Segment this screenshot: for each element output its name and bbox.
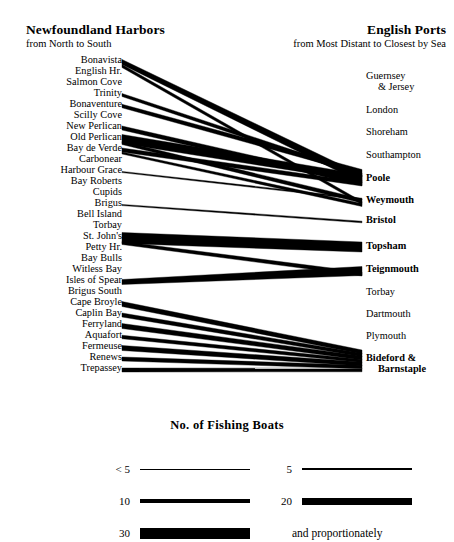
flow-band: [122, 357, 362, 369]
left-header-subtitle: from North to South: [26, 38, 165, 49]
port-label-line1: London: [366, 104, 398, 115]
port-label: Teignmouth: [366, 264, 419, 275]
flow-band: [122, 171, 362, 199]
legend-item: 10: [86, 495, 250, 507]
port-label: Weymouth: [366, 195, 414, 206]
port-label: Torbay: [366, 287, 395, 298]
right-header-title: English Ports: [293, 22, 446, 38]
flow-band: [122, 233, 362, 253]
port-label-line1: Torbay: [366, 286, 395, 297]
harbor-label: Brigus South: [68, 286, 122, 297]
legend-item-value: 30: [86, 527, 140, 539]
legend-item-swatch: [140, 528, 250, 539]
harbor-label: Torbay: [93, 220, 122, 231]
port-label-line1: Bristol: [366, 214, 396, 225]
port-label: Poole: [366, 173, 390, 184]
harbor-label: Ferryland: [82, 319, 122, 330]
port-label: Dartmouth: [366, 309, 411, 320]
flow-band: [122, 142, 362, 204]
port-label: London: [366, 105, 398, 116]
port-label-line1: Dartmouth: [366, 308, 411, 319]
flow-band: [122, 368, 362, 372]
port-label: Bristol: [366, 215, 396, 226]
harbor-label: Cupids: [93, 187, 122, 198]
harbor-label: Bay Bulls: [81, 253, 122, 264]
harbor-label: Scilly Cove: [74, 110, 122, 121]
left-column-header: Newfoundland Harbors from North to South: [26, 22, 165, 49]
legend-item: 20: [248, 495, 412, 507]
flow-band: [122, 267, 362, 285]
flow-band: [122, 346, 362, 367]
port-label-line1: Guernsey: [366, 70, 405, 81]
port-label-line1: Weymouth: [366, 194, 414, 205]
right-column-header: English Ports from Most Distant to Close…: [293, 22, 446, 49]
port-label-line1: Southampton: [366, 149, 421, 160]
flow-band: [122, 65, 362, 205]
port-label-line1: Teignmouth: [366, 263, 419, 274]
harbor-label: Salmon Cove: [66, 77, 122, 88]
port-label-line2: Barnstaple: [366, 364, 426, 375]
legend-note: and proportionately: [292, 527, 382, 539]
legend-item: 30: [86, 527, 250, 539]
harbor-label: Aquafort: [85, 330, 122, 341]
legend-item: 5: [248, 463, 412, 475]
port-label: Bideford &Barnstaple: [366, 353, 426, 374]
harbor-label: Witless Bay: [72, 264, 122, 275]
port-label-line2: & Jersey: [366, 82, 414, 93]
harbor-label: St. John's: [83, 231, 122, 242]
harbor-label: Harbour Grace: [61, 165, 122, 176]
harbor-label: Bonavista: [81, 55, 122, 66]
port-label: Shoreham: [366, 127, 408, 138]
port-label: Plymouth: [366, 331, 406, 342]
legend-item: < 5: [86, 463, 250, 475]
harbor-label: Isles of Spear: [66, 275, 122, 286]
right-header-subtitle: from Most Distant to Closest by Sea: [293, 38, 446, 49]
harbor-label: Petty Hr.: [85, 242, 122, 253]
port-label-line1: Topsham: [366, 240, 406, 251]
flow-band: [122, 324, 362, 361]
legend: No. of Fishing Boats < 55102030and propo…: [0, 418, 454, 542]
legend-item-value: 10: [86, 495, 140, 507]
harbor-label: Renews: [89, 352, 122, 363]
legend-items: < 55102030and proportionately: [0, 451, 454, 542]
flow-band: [122, 313, 362, 357]
harbor-label: Fermeuse: [82, 341, 122, 352]
legend-title: No. of Fishing Boats: [0, 418, 454, 433]
harbor-label: Bay Roberts: [71, 176, 122, 187]
port-label-line1: Bideford &: [366, 352, 416, 363]
legend-item-swatch: [140, 499, 250, 503]
harbor-label: Carbonear: [79, 154, 122, 165]
port-label: Guernsey& Jersey: [366, 71, 414, 92]
port-label-line1: Plymouth: [366, 330, 406, 341]
flow-band: [122, 126, 362, 186]
legend-item-value: 20: [248, 495, 302, 507]
harbor-label: Bell Island: [77, 209, 122, 220]
harbor-label: Brigus: [95, 198, 122, 209]
port-label: Topsham: [366, 241, 406, 252]
flow-band: [122, 94, 362, 178]
harbor-label: Caplin Bay: [75, 308, 122, 319]
legend-item-swatch: [302, 468, 412, 470]
flow-band: [122, 204, 362, 222]
harbor-label: Bay de Verde: [67, 143, 122, 154]
port-label-line1: Shoreham: [366, 126, 408, 137]
harbor-label: Cape Broyle: [70, 297, 122, 308]
legend-item-value: < 5: [86, 463, 140, 475]
harbor-label: English Hr.: [75, 66, 122, 77]
harbor-label: Old Perlican: [70, 132, 122, 143]
flow-diagram: Newfoundland Harbors from North to South…: [0, 0, 454, 542]
legend-item-value: 5: [248, 463, 302, 475]
flow-band: [122, 335, 362, 362]
port-label-line1: Poole: [366, 172, 390, 183]
flow-band: [122, 148, 362, 186]
flow-band: [122, 152, 362, 207]
harbor-label: Trinity: [94, 88, 122, 99]
port-label: Southampton: [366, 150, 421, 161]
harbor-label: New Perlican: [66, 121, 122, 132]
legend-item-swatch: [302, 498, 412, 505]
flow-band: [122, 242, 362, 277]
legend-item-swatch: [140, 469, 250, 470]
harbor-label: Bonaventure: [69, 99, 122, 110]
flow-band: [122, 60, 362, 184]
harbor-label: Trepassey: [81, 363, 122, 374]
